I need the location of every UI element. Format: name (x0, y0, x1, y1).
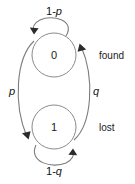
self-loop-state-1-arrowhead (68, 148, 77, 155)
transition-label-self-loop-1-symbol: q (56, 165, 63, 177)
transition-label-self-loop-0-prefix: 1- (46, 5, 56, 17)
state-node-0-label: 0 (51, 49, 57, 61)
annotation-found: found (99, 50, 124, 61)
edge-state-1-to-state-0-arrowhead (78, 43, 87, 51)
state-diagram-root: 0 1 1-p p q 1-q found lost (0, 0, 135, 184)
transition-label-edge-1-to-0-symbol: q (93, 85, 100, 97)
transition-label-self-loop-1-prefix: 1- (46, 165, 56, 177)
state-node-1-label: 1 (51, 121, 57, 133)
state-diagram-canvas: 0 1 1-p p q 1-q found lost (0, 0, 135, 184)
transition-label-self-loop-0-symbol: p (55, 5, 62, 17)
state-node-0[interactable]: 0 (32, 33, 76, 77)
edge-state-0-to-state-1-arrowhead (22, 131, 31, 139)
annotation-lost: lost (99, 122, 115, 133)
transition-label-self-loop-0: 1-p (46, 5, 62, 17)
transition-label-edge-0-to-1-symbol: p (8, 85, 15, 97)
transition-label-self-loop-1: 1-q (46, 165, 63, 177)
transition-label-edge-1-to-0: q (93, 85, 100, 97)
state-node-1[interactable]: 1 (32, 105, 76, 149)
transition-label-edge-0-to-1: p (8, 85, 15, 97)
self-loop-state-0-arrowhead (30, 28, 39, 35)
